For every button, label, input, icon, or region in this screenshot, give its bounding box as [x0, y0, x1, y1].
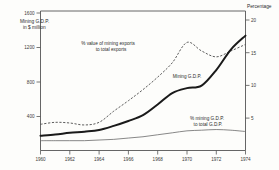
series-line-mining-gdp-share [41, 130, 246, 141]
tick-label-x-1966: 1966 [123, 157, 134, 162]
y-axis-left-title-line2: in $ million [23, 25, 46, 30]
annotation-mining-exports-line1: % value of mining exports [81, 41, 135, 46]
tick-label-x-1968: 1968 [153, 157, 164, 162]
tick-label-right-20: 20 [251, 18, 257, 23]
annotation-mining-gdp: Mining G.D.P. [173, 74, 202, 79]
annotation-mining-exports: % value of mining exports to total expor… [81, 41, 135, 52]
tick-label-x-1962: 1962 [65, 157, 76, 162]
series-line-mining-exports-share [41, 42, 246, 125]
tick-label-right-5: 5 [251, 116, 254, 121]
y-axis-left-title: Mining G.D.P. in $ million [20, 19, 49, 30]
annotation-mining-gdp-share: % mining G.D.P. to total G.D.P. [190, 116, 224, 127]
y-axis-right-ticks: 20 15 10 5 [246, 18, 257, 121]
x-axis-ticks: 1960 1962 1964 1966 1968 1970 1972 1974 [35, 151, 251, 163]
y-axis-left-title-line1: Mining G.D.P. [20, 19, 49, 24]
annotation-mining-exports-line2: to total exports [96, 47, 127, 52]
chart-canvas: 1600 1200 800 400 Mining G.D.P. in $ mil… [0, 0, 279, 170]
annotation-mining-gdp-share-line2: to total G.D.P. [194, 122, 223, 127]
tick-label-left-1600: 1600 [24, 11, 35, 16]
tick-label-x-1974: 1974 [240, 157, 251, 162]
tick-label-left-1200: 1200 [24, 45, 35, 50]
tick-label-right-15: 15 [251, 51, 257, 56]
mining-economy-chart: 1600 1200 800 400 Mining G.D.P. in $ mil… [0, 0, 279, 170]
tick-label-x-1964: 1964 [94, 157, 105, 162]
y-axis-right-title: Percentage [247, 4, 272, 9]
tick-label-x-1970: 1970 [182, 157, 193, 162]
tick-label-left-400: 400 [27, 114, 35, 119]
annotation-mining-gdp-share-line1: % mining G.D.P. [190, 116, 224, 121]
tick-label-left-800: 800 [27, 80, 35, 85]
tick-label-right-10: 10 [251, 83, 257, 88]
tick-label-x-1972: 1972 [211, 157, 222, 162]
tick-label-x-1960: 1960 [35, 157, 46, 162]
